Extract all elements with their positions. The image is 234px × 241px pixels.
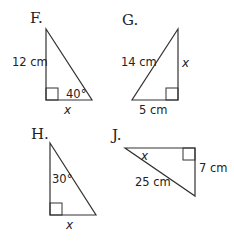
triangle-f-label: F. (30, 9, 43, 27)
triangle-h-unknown: x (65, 218, 74, 232)
triangle-h: H. 30° x (31, 125, 96, 232)
triangle-g-hyp-label: 14 cm (121, 55, 157, 69)
triangle-f: F. 12 cm 40° x (12, 9, 92, 117)
triangle-f-angle-label: 40° (66, 87, 86, 101)
triangle-g: G. 14 cm x 5 cm (121, 11, 190, 117)
triangle-f-side-label: 12 cm (12, 55, 48, 69)
triangle-j-unknown: x (140, 149, 149, 163)
triangle-g-unknown: x (181, 56, 190, 70)
triangle-h-label: H. (31, 125, 49, 143)
triangle-g-base-label: 5 cm (139, 103, 168, 117)
right-angle-marker (46, 88, 58, 100)
right-angle-marker (166, 88, 178, 100)
triangle-g-label: G. (122, 11, 138, 29)
right-angle-marker (50, 203, 62, 215)
right-angle-marker (183, 148, 195, 160)
triangle-f-unknown: x (63, 103, 72, 117)
triangle-j-label: J. (110, 126, 122, 144)
triangle-j-side-label: 7 cm (199, 161, 228, 175)
triangles-figure: F. 12 cm 40° x G. 14 cm x 5 cm H. 30° x … (0, 0, 234, 241)
triangle-j-hyp-label: 25 cm (135, 175, 171, 189)
triangle-j: J. x 25 cm 7 cm (110, 126, 228, 196)
triangle-h-angle-label: 30° (52, 172, 72, 186)
